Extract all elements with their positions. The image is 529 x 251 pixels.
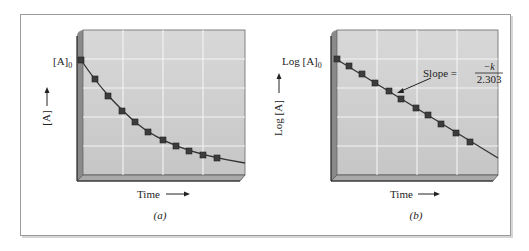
slope-label: Slope = — [423, 67, 457, 79]
panel-a-left-wall — [77, 30, 83, 181]
panel-b-x-axis-label: Time — [390, 188, 413, 200]
panel-a-y-axis-label: [A] — [40, 110, 52, 125]
panel-a-caption: (a) — [154, 209, 167, 222]
panel-b-floor — [331, 175, 498, 181]
panel-b-y-start-label: Log [A]0 — [282, 55, 322, 70]
panel-b-caption: (b) — [410, 209, 423, 222]
panel-a-x-axis-label: Time — [137, 188, 160, 200]
panel-a-plot-area — [83, 30, 245, 175]
panel-a-y-start-label: [A]0 — [53, 55, 72, 70]
slope-denominator: 2.303 — [477, 73, 502, 85]
panel-b-y-axis-label: Log [A] — [272, 100, 284, 136]
panel-a-chart: [A]0 [A] Time (a) — [40, 30, 245, 222]
panel-a-floor — [77, 175, 245, 181]
panel-b-left-wall — [331, 30, 337, 181]
slope-numerator: −k — [483, 61, 495, 72]
figure-svg: [A]0 [A] Time (a) — [0, 0, 529, 251]
panel-b-chart: Slope = −k 2.303 Log [A]0 Log [A] Time (… — [272, 30, 503, 222]
